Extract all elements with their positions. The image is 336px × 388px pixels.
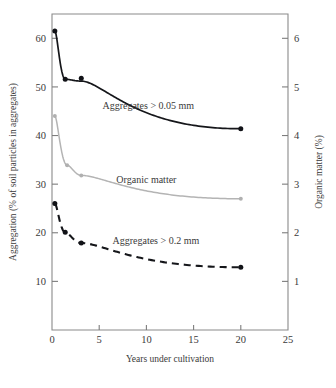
y-left-tick-label: 30: [36, 179, 47, 190]
y-right-axis-title: Organic matter (%): [314, 135, 325, 209]
data-point: [238, 126, 243, 131]
y-left-tick-label: 20: [36, 227, 47, 238]
data-point: [63, 77, 68, 82]
chart-canvas: 0510152025102030405060123456Years under …: [0, 0, 336, 388]
data-point: [52, 29, 57, 34]
series-line-1: [55, 116, 241, 199]
series-annotation-1: Organic matter: [116, 174, 177, 185]
x-tick-label: 10: [141, 334, 152, 345]
y-right-tick-label: 1: [294, 276, 299, 287]
data-point: [63, 230, 68, 235]
x-axis-title: Years under cultivation: [126, 354, 214, 364]
chart-figure: 0510152025102030405060123456Years under …: [0, 0, 336, 388]
y-right-tick-label: 6: [294, 33, 299, 44]
y-right-tick-label: 2: [294, 227, 299, 238]
y-left-tick-label: 10: [36, 276, 47, 287]
data-point: [238, 265, 243, 270]
y-left-tick-label: 60: [36, 33, 47, 44]
series-annotation-2: Aggregates > 0.2 mm: [112, 235, 199, 246]
x-tick-label: 0: [49, 334, 54, 345]
y-left-axis-title: Aggregation (% of soil particles in aggr…: [8, 83, 19, 261]
y-right-tick-label: 5: [294, 82, 299, 93]
data-point: [79, 76, 84, 81]
plot-frame: [52, 14, 288, 330]
y-right-tick-label: 3: [294, 179, 299, 190]
x-tick-label: 20: [236, 334, 247, 345]
data-point: [65, 163, 69, 167]
data-point: [79, 173, 83, 177]
y-left-tick-label: 50: [36, 82, 47, 93]
data-point: [239, 197, 243, 201]
x-tick-label: 15: [188, 334, 199, 345]
x-tick-label: 5: [97, 334, 102, 345]
data-point: [79, 240, 84, 245]
data-point: [52, 201, 57, 206]
y-left-tick-label: 40: [36, 130, 47, 141]
data-point: [53, 114, 57, 118]
series-annotation-0: Aggregates > 0.05 mm: [102, 100, 194, 111]
x-tick-label: 25: [283, 334, 294, 345]
y-right-tick-label: 4: [294, 130, 300, 141]
